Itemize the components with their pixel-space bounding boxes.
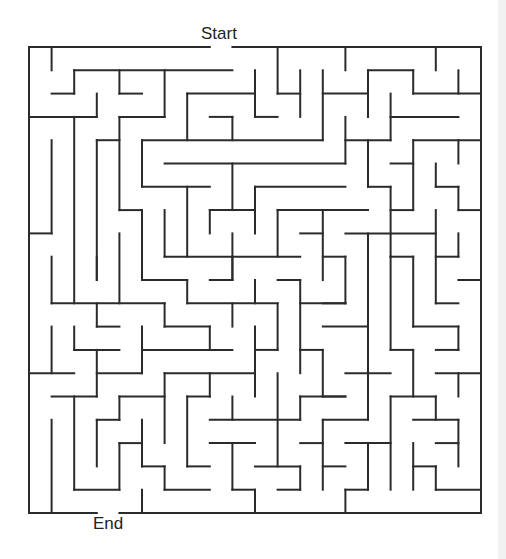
maze-board	[0, 0, 506, 559]
start-label: Start	[201, 25, 237, 42]
end-label: End	[93, 515, 123, 532]
